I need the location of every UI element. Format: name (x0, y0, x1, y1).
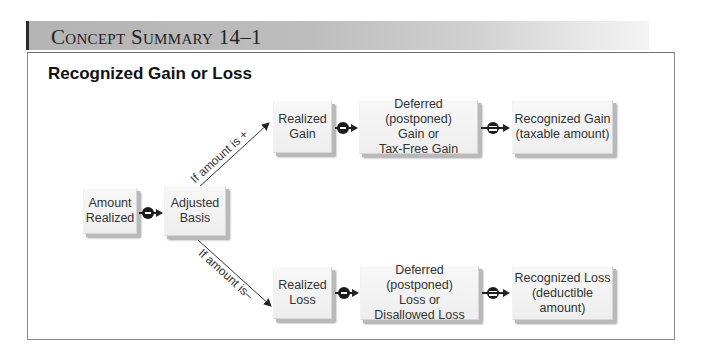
node-deferred-loss: Deferred (postponed) Loss or Disallowed … (360, 266, 479, 320)
arrowhead-icon (156, 209, 163, 217)
node-realized-gain: Realized Gain (273, 101, 332, 153)
node-recognized-loss: Recognized Loss (deductible amount) (512, 266, 613, 320)
equals-operator-icon (487, 287, 499, 299)
node-deferred-gain: Deferred (postponed) Gain or Tax-Free Ga… (359, 100, 478, 154)
equals-operator-icon (487, 122, 499, 134)
node-recognized-gain: Recognized Gain (taxable amount) (512, 100, 613, 154)
minus-operator-icon (142, 207, 154, 219)
arrowhead-icon (503, 289, 510, 297)
arrowhead-icon (352, 289, 359, 297)
minus-operator-icon (338, 287, 350, 299)
node-adjusted-basis: Adjusted Basis (164, 186, 226, 236)
arrowhead-icon (503, 124, 510, 132)
node-amount-realized: Amount Realized (83, 188, 137, 234)
node-realized-loss: Realized Loss (273, 267, 332, 319)
minus-operator-icon (337, 122, 349, 134)
arrowhead-icon (351, 124, 358, 132)
